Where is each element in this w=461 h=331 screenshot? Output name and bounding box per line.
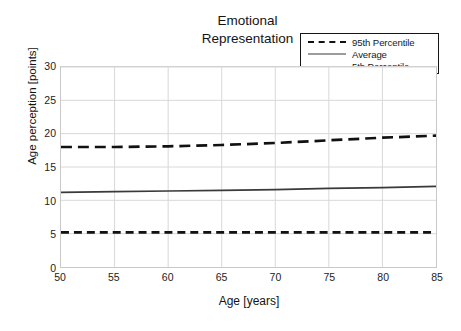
x-axis-tick-labels: 5055606570758085 [60, 271, 437, 287]
series-line [61, 136, 436, 147]
y-axis-tick-label: 25 [10, 94, 56, 106]
chart-title-line-1: Emotional [150, 12, 345, 30]
chart-figure: Emotional Representation 95th Percentile… [0, 0, 461, 331]
y-axis-tick-label: 5 [10, 228, 56, 240]
data-series-lines [61, 67, 436, 267]
legend-label-95th-percentile: 95th Percentile [352, 37, 415, 48]
y-axis-tick-label: 10 [10, 195, 56, 207]
legend-swatch-solid-icon [308, 49, 346, 60]
legend-item-95th-percentile: 95th Percentile [301, 36, 438, 48]
x-axis-tick-label: 75 [309, 271, 349, 283]
y-axis-tick-label: 30 [10, 60, 56, 72]
x-axis-tick-label: 70 [255, 271, 295, 283]
legend-swatch-dashed-long-icon [308, 37, 346, 48]
series-line [61, 186, 436, 192]
x-axis-title: Age [years] [60, 294, 438, 308]
y-axis-tick-labels: 051015202530 [8, 66, 56, 268]
y-axis-tick-label: 15 [10, 161, 56, 173]
x-axis-tick-label: 50 [40, 271, 80, 283]
legend-item-average: Average [301, 48, 438, 60]
x-axis-tick-label: 85 [417, 271, 457, 283]
x-axis-tick-label: 80 [363, 271, 403, 283]
x-axis-tick-label: 60 [148, 271, 188, 283]
y-axis-tick-label: 20 [10, 127, 56, 139]
x-axis-tick-label: 55 [94, 271, 134, 283]
x-axis-tick-label: 65 [202, 271, 242, 283]
plot-area [60, 66, 437, 268]
legend-label-average: Average [352, 49, 387, 60]
